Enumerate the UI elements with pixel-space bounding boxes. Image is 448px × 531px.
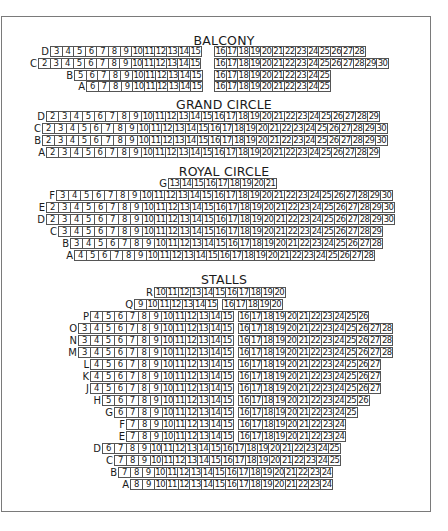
seat-stalls-C7[interactable]: 7 bbox=[115, 455, 127, 466]
seat-stalls-N3[interactable]: 3 bbox=[79, 335, 91, 346]
seat-stalls-E22[interactable]: 22 bbox=[310, 431, 322, 442]
seat-grand-circle-D12[interactable]: 12 bbox=[166, 111, 178, 122]
seat-stalls-H19[interactable]: 19 bbox=[274, 395, 286, 406]
seat-stalls-M11[interactable]: 11 bbox=[174, 347, 186, 358]
seat-stalls-K15[interactable]: 15 bbox=[222, 371, 234, 382]
seat-stalls-A10[interactable]: 10 bbox=[155, 479, 167, 490]
seat-balcony-D24[interactable]: 24 bbox=[308, 46, 320, 57]
seat-royal-circle-B8[interactable]: 8 bbox=[131, 238, 143, 249]
seat-balcony-D22[interactable]: 22 bbox=[284, 46, 296, 57]
seat-balcony-C28[interactable]: 28 bbox=[354, 58, 366, 69]
seat-stalls-P5[interactable]: 5 bbox=[103, 311, 115, 322]
seat-stalls-J14[interactable]: 14 bbox=[210, 383, 222, 394]
seat-stalls-M4[interactable]: 4 bbox=[91, 347, 103, 358]
seat-stalls-P15[interactable]: 15 bbox=[222, 311, 234, 322]
seat-stalls-J11[interactable]: 11 bbox=[174, 383, 186, 394]
seat-balcony-A19[interactable]: 19 bbox=[250, 81, 262, 92]
seat-royal-circle-D4[interactable]: 4 bbox=[71, 214, 83, 225]
seat-royal-circle-A27[interactable]: 27 bbox=[351, 250, 363, 261]
seat-balcony-B24[interactable]: 24 bbox=[308, 70, 320, 81]
seat-royal-circle-D21[interactable]: 21 bbox=[275, 214, 287, 225]
seat-stalls-O20[interactable]: 20 bbox=[286, 323, 298, 334]
seat-stalls-G9[interactable]: 9 bbox=[151, 407, 163, 418]
seat-stalls-B7[interactable]: 7 bbox=[119, 467, 131, 478]
seat-royal-circle-B28[interactable]: 28 bbox=[371, 238, 383, 249]
seat-grand-circle-A26[interactable]: 26 bbox=[332, 147, 344, 158]
seat-stalls-L14[interactable]: 14 bbox=[210, 359, 222, 370]
seat-royal-circle-D18[interactable]: 18 bbox=[239, 214, 251, 225]
seat-stalls-C9[interactable]: 9 bbox=[139, 455, 151, 466]
seat-balcony-C23[interactable]: 23 bbox=[296, 58, 308, 69]
seat-balcony-A18[interactable]: 18 bbox=[238, 81, 250, 92]
seat-balcony-C2[interactable]: 2 bbox=[39, 58, 51, 69]
seat-stalls-M25[interactable]: 25 bbox=[346, 347, 358, 358]
seat-stalls-H21[interactable]: 21 bbox=[298, 395, 310, 406]
seat-royal-circle-E28[interactable]: 28 bbox=[359, 202, 371, 213]
seat-stalls-N24[interactable]: 24 bbox=[334, 335, 346, 346]
seat-royal-circle-D16[interactable]: 16 bbox=[215, 214, 227, 225]
seat-stalls-Q17[interactable]: 17 bbox=[235, 299, 247, 310]
seat-grand-circle-D29[interactable]: 29 bbox=[368, 111, 380, 122]
seat-stalls-Q14[interactable]: 14 bbox=[194, 299, 206, 310]
seat-stalls-J25[interactable]: 25 bbox=[346, 383, 358, 394]
seat-royal-circle-F9[interactable]: 9 bbox=[129, 190, 141, 201]
seat-stalls-P11[interactable]: 11 bbox=[174, 311, 186, 322]
seat-royal-circle-D22[interactable]: 22 bbox=[287, 214, 299, 225]
seat-royal-circle-D20[interactable]: 20 bbox=[263, 214, 275, 225]
seat-stalls-D14[interactable]: 14 bbox=[198, 443, 210, 454]
seat-grand-circle-D17[interactable]: 17 bbox=[225, 111, 237, 122]
seat-stalls-F22[interactable]: 22 bbox=[310, 419, 322, 430]
seat-royal-circle-D11[interactable]: 11 bbox=[155, 214, 167, 225]
seat-royal-circle-E23[interactable]: 23 bbox=[299, 202, 311, 213]
seat-royal-circle-C9[interactable]: 9 bbox=[131, 226, 143, 237]
seat-stalls-E12[interactable]: 12 bbox=[186, 431, 198, 442]
seat-stalls-D24[interactable]: 24 bbox=[317, 443, 329, 454]
seat-balcony-B10[interactable]: 10 bbox=[133, 70, 145, 81]
seat-stalls-C16[interactable]: 16 bbox=[222, 455, 234, 466]
seat-stalls-A19[interactable]: 19 bbox=[262, 479, 274, 490]
seat-stalls-D25[interactable]: 25 bbox=[329, 443, 341, 454]
seat-stalls-F23[interactable]: 23 bbox=[322, 419, 334, 430]
seat-balcony-B22[interactable]: 22 bbox=[284, 70, 296, 81]
seat-stalls-P8[interactable]: 8 bbox=[139, 311, 151, 322]
seat-stalls-N15[interactable]: 15 bbox=[222, 335, 234, 346]
seat-stalls-C19[interactable]: 19 bbox=[258, 455, 270, 466]
seat-royal-circle-A16[interactable]: 16 bbox=[219, 250, 231, 261]
seat-stalls-D22[interactable]: 22 bbox=[293, 443, 305, 454]
seat-royal-circle-E9[interactable]: 9 bbox=[131, 202, 143, 213]
seat-royal-circle-B14[interactable]: 14 bbox=[203, 238, 215, 249]
seat-balcony-B7[interactable]: 7 bbox=[98, 70, 110, 81]
seat-stalls-N25[interactable]: 25 bbox=[346, 335, 358, 346]
seat-royal-circle-D23[interactable]: 23 bbox=[299, 214, 311, 225]
seat-stalls-M3[interactable]: 3 bbox=[79, 347, 91, 358]
seat-balcony-D26[interactable]: 26 bbox=[331, 46, 343, 57]
seat-stalls-H17[interactable]: 17 bbox=[251, 395, 263, 406]
seat-stalls-L21[interactable]: 21 bbox=[298, 359, 310, 370]
seat-royal-circle-B16[interactable]: 16 bbox=[227, 238, 239, 249]
seat-stalls-R20[interactable]: 20 bbox=[274, 287, 286, 298]
seat-stalls-C20[interactable]: 20 bbox=[270, 455, 282, 466]
seat-balcony-B18[interactable]: 18 bbox=[238, 70, 250, 81]
seat-grand-circle-A2[interactable]: 2 bbox=[47, 147, 59, 158]
seat-stalls-E16[interactable]: 16 bbox=[239, 431, 251, 442]
seat-grand-circle-A3[interactable]: 3 bbox=[59, 147, 71, 158]
seat-stalls-R11[interactable]: 11 bbox=[167, 287, 179, 298]
seat-stalls-B10[interactable]: 10 bbox=[155, 467, 167, 478]
seat-balcony-D17[interactable]: 17 bbox=[227, 46, 239, 57]
seat-stalls-M12[interactable]: 12 bbox=[186, 347, 198, 358]
seat-royal-circle-B6[interactable]: 6 bbox=[107, 238, 119, 249]
seat-royal-circle-E10[interactable]: 10 bbox=[143, 202, 155, 213]
seat-grand-circle-B7[interactable]: 7 bbox=[102, 135, 114, 146]
seat-grand-circle-C13[interactable]: 13 bbox=[174, 123, 186, 134]
seat-royal-circle-B23[interactable]: 23 bbox=[311, 238, 323, 249]
seat-stalls-G23[interactable]: 23 bbox=[322, 407, 334, 418]
seat-stalls-K18[interactable]: 18 bbox=[262, 371, 274, 382]
seat-stalls-L16[interactable]: 16 bbox=[239, 359, 251, 370]
seat-grand-circle-A5[interactable]: 5 bbox=[83, 147, 95, 158]
seat-balcony-C24[interactable]: 24 bbox=[308, 58, 320, 69]
seat-stalls-G14[interactable]: 14 bbox=[210, 407, 222, 418]
seat-stalls-K8[interactable]: 8 bbox=[139, 371, 151, 382]
seat-grand-circle-C5[interactable]: 5 bbox=[79, 123, 91, 134]
seat-stalls-C25[interactable]: 25 bbox=[329, 455, 341, 466]
seat-grand-circle-D15[interactable]: 15 bbox=[202, 111, 214, 122]
